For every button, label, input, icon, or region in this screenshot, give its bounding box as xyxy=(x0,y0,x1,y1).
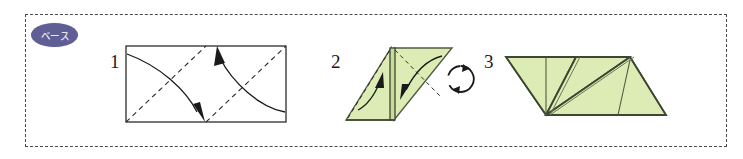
step-3-number: 3 xyxy=(484,52,494,71)
step-1-figure xyxy=(120,38,292,130)
base-badge: ベース xyxy=(31,23,78,47)
step-2-center-spine xyxy=(390,48,395,120)
origami-diagram-canvas: ベース 1 2 3 xyxy=(0,0,743,159)
rotate-icon xyxy=(444,62,478,96)
base-badge-label: ベース xyxy=(40,28,69,43)
step-1-number: 1 xyxy=(110,52,120,71)
rotate-icon-circle xyxy=(448,66,474,92)
step-3-figure xyxy=(498,46,678,132)
step-1-paper-rectangle xyxy=(126,46,286,122)
